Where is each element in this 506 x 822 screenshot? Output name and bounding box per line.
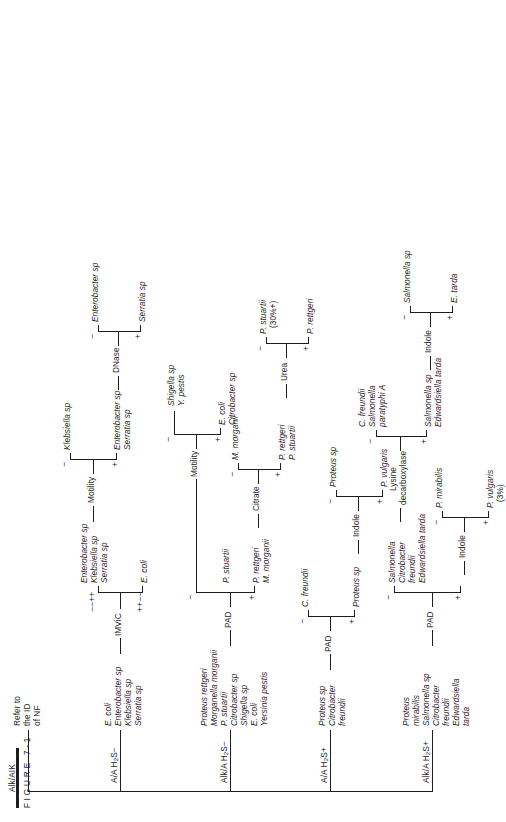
- organism-label: P. rettgeri: [306, 299, 316, 334]
- organism-note: (30%+): [269, 301, 279, 328]
- organism-label: E. tarda: [450, 274, 460, 303]
- test-label-motility-alka: Motility: [190, 451, 200, 477]
- bracket-indole-alka-pos-minus-arm: [442, 511, 443, 518]
- connector-urea-out: [286, 344, 287, 358]
- bracket-motility-alka-minus-arm: [174, 411, 175, 435]
- organism-label: Serratia sp: [134, 685, 144, 726]
- figure-caption: FIGURE 7-1: [22, 735, 32, 808]
- test-label-indole-lower: Indole: [424, 330, 434, 353]
- bracket-pad-alka-pos-minus-arm: [394, 586, 395, 593]
- branch-header-aa-h2s-neg-sub: 2: [112, 758, 119, 762]
- sign-label-imvic-plus: ++−−: [136, 592, 146, 612]
- sign-label-pad-aa-pos-plus: +: [348, 619, 358, 624]
- bracket-dnase-minus-arm: [98, 325, 99, 332]
- sign-label-dnase-minus: −: [88, 334, 98, 339]
- branch-header-aa-h2s-neg-post: S−: [109, 747, 119, 758]
- test-label-motility-aa: Motility: [87, 477, 97, 503]
- sign-label-lysine-minus: −: [366, 439, 376, 444]
- sign-label-pad-alka-pos-minus: −: [384, 595, 394, 600]
- test-label-imvic: IMViC: [114, 613, 124, 636]
- bracket-indole-aa-pos-minus-arm: [336, 490, 337, 497]
- branch-header-alka-h2s-neg: Alk/A H2S−: [210, 741, 239, 792]
- test-label-urea: Urea: [280, 363, 290, 381]
- sign-label-pad-alka-neg-minus: −: [186, 595, 196, 600]
- connector-to-indole-lower: [430, 356, 431, 370]
- connector-imvic-out: [120, 593, 121, 609]
- sign-label-pad-alka-neg-plus: +: [248, 595, 258, 600]
- connector-to-citrate: [258, 514, 259, 528]
- bracket-motility-aa-minus-arm: [70, 453, 71, 460]
- bracket-pad-alka-pos-plus-arm: [460, 586, 461, 593]
- branch-header-alka-h2s-neg-sub: 2: [222, 752, 229, 756]
- connector-to-indole-aa-pos: [358, 540, 359, 554]
- sign-label-indole-aa-pos-minus: −: [326, 499, 336, 504]
- organism-label: Edwardsiella tarda: [434, 358, 444, 427]
- bracket-indole-aa-pos: [336, 496, 382, 497]
- organism-label: Proteus sp: [329, 447, 339, 487]
- long-run-pad-minus-to-motility: [196, 479, 197, 593]
- sign-label-indole-lower-plus: +: [446, 315, 456, 320]
- organism-label: Klebsiella sp: [63, 403, 73, 450]
- organism-label: P. stuartii: [288, 426, 298, 460]
- bracket-dnase-plus-arm: [140, 325, 141, 332]
- test-label-pad-alka-pos: PAD: [426, 611, 436, 628]
- sign-label-indole-alka-pos-minus: −: [432, 520, 442, 525]
- branch-header-alka-h2s-pos-pre: Alk/A H: [421, 755, 431, 783]
- branch-header-alka-h2s-pos-sub: 2: [424, 752, 431, 756]
- bracket-citrate-plus-arm: [280, 463, 281, 470]
- bracket-urea-minus-arm: [266, 337, 267, 344]
- connector-citrate-out: [258, 470, 259, 484]
- organism-label: Enterobacter sp: [91, 263, 101, 322]
- sign-label-motility-alka-minus: −: [164, 437, 174, 442]
- connector-to-motility-aa: [93, 506, 94, 522]
- connector-to-pad-aa-pos: [330, 654, 331, 670]
- test-label-pad-aa-pos: PAD: [324, 635, 334, 652]
- organism-label: P. mirabilis: [435, 468, 445, 508]
- connector-motility-aa-out: [93, 460, 94, 474]
- connector-motility-alka-out: [196, 435, 197, 449]
- test-label-dnase: DNase: [112, 347, 122, 373]
- bracket-motility-aa: [70, 459, 116, 460]
- test-label-pad-alka-neg: PAD: [224, 611, 234, 628]
- branch-header-alka-h2s-pos-post: S+: [421, 741, 431, 752]
- organism-label: Serratia sp: [100, 542, 110, 583]
- sign-label-motility-alka-plus: +: [214, 437, 224, 442]
- connector-indole-aa-pos-out: [358, 497, 359, 511]
- organism-note: (3%): [496, 484, 506, 502]
- connector-to-indole-alka-pos: [464, 561, 465, 575]
- organism-label: E. coli: [140, 560, 150, 583]
- branch-header-alka-h2s-neg-post: S−: [219, 741, 229, 752]
- bracket-citrate: [238, 469, 280, 470]
- bracket-motility-alka-plus-arm: [220, 428, 221, 435]
- branch-header-aa-h2s-pos: A/A H2S+: [310, 747, 339, 792]
- organism-label: Edwardsiella tarda: [418, 514, 428, 583]
- bracket-imvic-minus-arm: [98, 586, 99, 593]
- connector-to-pad-alka-pos: [432, 630, 433, 646]
- sign-label-motility-aa-minus: −: [60, 462, 70, 467]
- organism-label: tarda: [462, 707, 472, 726]
- bracket-pad-aa-pos-plus-arm: [354, 610, 355, 617]
- bracket-lysine-minus-arm: [376, 430, 377, 437]
- test-label-indole-aa-pos: Indole: [352, 514, 362, 537]
- bracket-indole-alka-pos-plus-arm: [488, 511, 489, 518]
- branch-result-alk-alk-line3: of NF: [33, 705, 43, 726]
- bracket-indole-lower-minus-arm: [410, 306, 411, 313]
- branch-header-aa-h2s-neg: A/A H2S−: [100, 747, 129, 792]
- connector-pad-alka-pos-out: [432, 593, 433, 607]
- organism-label: Citrobacter sp: [228, 373, 238, 425]
- bracket-pad-aa-pos-minus-arm: [308, 610, 309, 617]
- branch-header-aa-h2s-pos-post: S+: [319, 747, 329, 758]
- connector-pad-aa-pos-out: [330, 617, 331, 631]
- branch-header-aa-h2s-pos-pre: A/A H: [319, 761, 329, 783]
- organism-label: M. morganii: [262, 539, 272, 583]
- connector-lysine-out: [400, 437, 401, 451]
- organism-label: freundii: [338, 698, 348, 726]
- test-label-indole-alka-pos: Indole: [458, 535, 468, 558]
- sign-label-dnase-plus: +: [134, 334, 144, 339]
- organism-label: Yersinia pestis: [260, 672, 270, 726]
- bracket-pad-alka-neg-plus-arm: [254, 586, 255, 593]
- connector-to-dnase: [118, 376, 119, 390]
- connector-to-imvic: [120, 638, 121, 654]
- bracket-pad-aa-pos: [308, 616, 354, 617]
